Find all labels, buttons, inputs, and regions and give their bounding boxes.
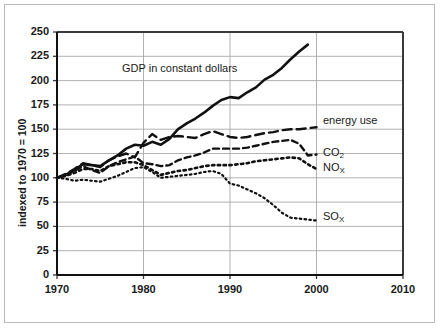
y-tick-label-25: 25	[15, 244, 49, 256]
x-tick-label-1980: 1980	[120, 283, 168, 295]
x-tick-label-2010: 2010	[379, 283, 427, 295]
series-line-sox	[57, 167, 317, 220]
chart-plot-area	[0, 0, 441, 329]
y-tick-label-75: 75	[15, 195, 49, 207]
annotation-energy-use: energy use	[323, 114, 377, 126]
y-tick-label-225: 225	[15, 49, 49, 61]
y-tick-label-175: 175	[15, 98, 49, 110]
annotation-co2: CO2	[323, 146, 344, 158]
annotation-nox-subscript: X	[340, 166, 345, 175]
y-tick-label-125: 125	[15, 147, 49, 159]
annotation-sox-text: SO	[323, 210, 339, 222]
y-tick-label-100: 100	[15, 171, 49, 183]
annotation-sox-subscript: X	[339, 215, 344, 224]
x-tick-label-1990: 1990	[206, 283, 254, 295]
annotation-co2-text: CO	[323, 146, 340, 158]
y-tick-label-200: 200	[15, 74, 49, 86]
x-tick-label-1970: 1970	[33, 283, 81, 295]
y-tick-label-150: 150	[15, 122, 49, 134]
annotation-gdp: GDP in constant dollars	[122, 62, 237, 74]
y-tick-label-250: 250	[15, 25, 49, 37]
annotation-sox: SOX	[323, 210, 344, 222]
x-tick-label-2000: 2000	[293, 283, 341, 295]
y-tick-label-0: 0	[15, 268, 49, 280]
annotation-nox-text: NO	[323, 161, 340, 173]
annotation-co2-subscript: 2	[340, 151, 344, 160]
y-tick-label-50: 50	[15, 219, 49, 231]
annotation-nox: NOX	[323, 161, 345, 173]
